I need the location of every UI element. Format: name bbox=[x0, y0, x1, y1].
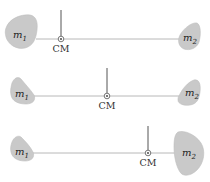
panel-3: m1 CM m2 bbox=[11, 126, 204, 175]
cm-label: CM bbox=[53, 43, 70, 54]
cm-label: CM bbox=[140, 157, 157, 168]
center-of-mass-diagram: m1 CM m2 m1 CM m2 m1 CM m2 bbox=[0, 0, 210, 182]
panel-2: m1 CM m2 bbox=[11, 68, 201, 111]
panel-1: m1 CM m2 bbox=[5, 10, 200, 54]
cm-label: CM bbox=[99, 100, 116, 111]
